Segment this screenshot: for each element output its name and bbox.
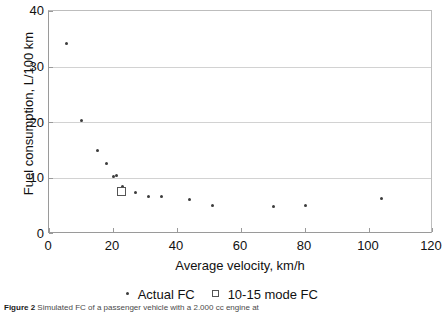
chart-legend: Actual FC 10-15 mode FC <box>0 285 444 302</box>
y-axis-tick-labels: 40 30 20 10 0 <box>0 0 44 312</box>
y-axis-tick <box>49 178 53 179</box>
plot-area <box>48 10 432 233</box>
x-tick-label: 80 <box>284 239 324 252</box>
data-point-actual-fc <box>380 197 383 200</box>
data-point-10-15-mode-fc <box>117 187 126 196</box>
figure-number: Figure 2 <box>4 303 35 312</box>
data-point-actual-fc <box>80 119 83 122</box>
data-point-actual-fc <box>96 149 99 152</box>
x-axis-tick-labels: 0 20 40 60 80 100 120 <box>0 239 444 255</box>
data-point-actual-fc <box>211 204 214 207</box>
x-tick-label: 40 <box>156 239 196 252</box>
x-axis-tick <box>369 228 370 232</box>
gridline-y-30 <box>49 67 431 68</box>
x-axis-tick <box>49 228 50 232</box>
open-square-marker-icon <box>212 290 219 297</box>
x-tick-label: 120 <box>411 239 444 252</box>
data-point-actual-fc <box>272 205 275 208</box>
x-tick-label: 60 <box>220 239 260 252</box>
y-tick-label: 30 <box>4 60 44 73</box>
x-axis-tick <box>305 228 306 232</box>
data-point-actual-fc <box>160 195 163 198</box>
figure-caption: Figure 2 Simulated FC of a passenger veh… <box>4 303 444 312</box>
y-tick-label: 10 <box>4 171 44 184</box>
data-point-actual-fc <box>65 42 68 45</box>
figure-fuel-consumption-vs-velocity: Fuel consumption, L/100 km 40 30 20 10 0… <box>0 0 444 312</box>
x-tick-label: 20 <box>92 239 132 252</box>
y-axis-tick <box>49 233 53 234</box>
legend-label: 10-15 mode FC <box>228 287 318 302</box>
legend-entry-actual-fc: Actual FC <box>126 286 195 302</box>
y-tick-label: 40 <box>4 4 44 17</box>
y-axis-tick <box>49 67 53 68</box>
x-axis-tick <box>241 228 242 232</box>
legend-label: Actual FC <box>138 287 195 302</box>
figure-caption-text: Simulated FC of a passenger vehicle with… <box>37 303 258 312</box>
x-axis-tick <box>113 228 114 232</box>
data-point-actual-fc <box>304 204 307 207</box>
y-axis-tick <box>49 122 53 123</box>
x-tick-label: 100 <box>348 239 388 252</box>
x-axis-tick <box>177 228 178 232</box>
x-axis-title: Average velocity, km/h <box>48 258 432 273</box>
data-point-actual-fc <box>105 162 108 165</box>
data-point-actual-fc <box>147 195 150 198</box>
y-axis-tick <box>49 11 53 12</box>
x-axis-tick <box>432 228 433 232</box>
data-point-actual-fc <box>115 174 118 177</box>
legend-entry-10-15-mode-fc: 10-15 mode FC <box>212 286 318 302</box>
gridline-y-10 <box>49 178 431 179</box>
y-tick-label: 20 <box>4 116 44 129</box>
x-tick-label: 0 <box>28 239 68 252</box>
dot-marker-icon <box>126 292 129 295</box>
data-point-actual-fc <box>134 191 137 194</box>
gridline-y-20 <box>49 122 431 123</box>
data-point-actual-fc <box>188 198 191 201</box>
